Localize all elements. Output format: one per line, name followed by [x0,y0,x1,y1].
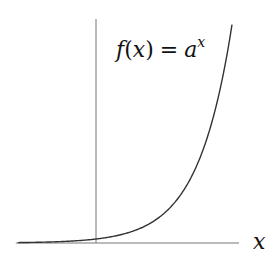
function-label-equals: = [160,37,178,62]
function-label-exponent: x [197,34,205,50]
exponential-chart: f(x)=ax x [0,0,276,259]
function-label-open-paren: ( [124,37,133,62]
function-label: f(x)=ax [114,34,205,62]
x-axis-label: x [253,229,266,254]
function-label-close-paren: ) [145,37,154,62]
function-label-var: x [133,37,146,62]
function-label-base: a [184,37,197,62]
